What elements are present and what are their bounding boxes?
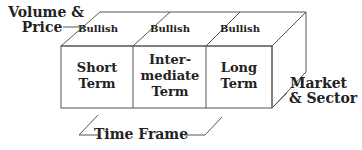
axis-label-volume-price: Volume & (7, 4, 84, 20)
bracket-right (184, 117, 222, 135)
top-cell-label: Bullish (150, 23, 191, 34)
top-cell-label: Bullish (78, 23, 119, 34)
axis-label-market-sector: Market (290, 75, 348, 91)
front-cell-label: Term (220, 76, 257, 91)
front-cell-label: Term (151, 84, 188, 99)
front-cell-label: mediate (141, 68, 200, 83)
front-cell-label: Short (77, 60, 117, 75)
time-frame-cube-diagram: Bullish Bullish Bullish Short Term Inter… (0, 0, 362, 150)
front-cell-label: Long (221, 60, 257, 75)
front-cell-label: Term (78, 76, 115, 91)
top-cell-label: Bullish (220, 23, 261, 34)
front-cell-label: Inter- (149, 52, 191, 67)
axis-label-volume-price: Price (22, 19, 63, 35)
axis-label-time-frame: Time Frame (94, 126, 188, 142)
pointer-line (272, 93, 287, 108)
axis-label-market-sector: & Sector (289, 90, 358, 106)
